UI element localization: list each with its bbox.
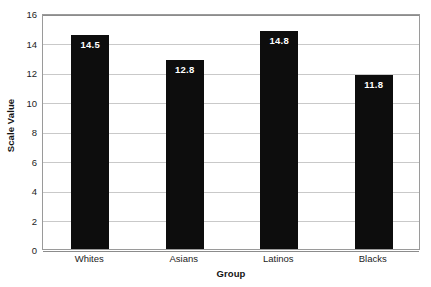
bars-layer: 14.512.814.811.8 xyxy=(43,15,419,249)
y-axis-title-text: Scale Value xyxy=(6,98,17,151)
y-axis-tick-labels: 0246810121416 xyxy=(20,14,40,250)
plot-area: 14.512.814.811.8 xyxy=(42,14,420,250)
bar-chart-figure: Scale Value 0246810121416 14.512.814.811… xyxy=(0,0,431,287)
y-tick-label: 8 xyxy=(32,127,37,138)
y-tick-label: 6 xyxy=(32,156,37,167)
y-axis-title: Scale Value xyxy=(0,0,22,250)
bar-value-label: 14.8 xyxy=(260,35,298,46)
bar[interactable]: 14.8 xyxy=(260,31,298,249)
y-tick-label: 12 xyxy=(26,68,37,79)
x-axis-title: Group xyxy=(42,268,420,279)
y-tick-label: 0 xyxy=(32,245,37,256)
gridline xyxy=(43,251,419,252)
bar-group[interactable]: 11.8 xyxy=(355,15,393,249)
bar-value-label: 11.8 xyxy=(355,79,393,90)
bar-group[interactable]: 14.8 xyxy=(260,15,298,249)
bar-group[interactable]: 12.8 xyxy=(166,15,204,249)
y-tick-label: 14 xyxy=(26,38,37,49)
x-tick-label: Latinos xyxy=(263,253,294,264)
bar-value-label: 12.8 xyxy=(166,64,204,75)
bar-group[interactable]: 14.5 xyxy=(71,15,109,249)
x-axis-tick-labels: WhitesAsiansLatinosBlacks xyxy=(42,253,420,269)
y-tick-label: 10 xyxy=(26,97,37,108)
x-tick-label: Blacks xyxy=(359,253,387,264)
bar[interactable]: 12.8 xyxy=(166,60,204,249)
bar[interactable]: 14.5 xyxy=(71,35,109,249)
bar[interactable]: 11.8 xyxy=(355,75,393,249)
x-tick-label: Asians xyxy=(169,253,198,264)
bar-value-label: 14.5 xyxy=(71,39,109,50)
y-tick-label: 2 xyxy=(32,215,37,226)
x-tick-label: Whites xyxy=(75,253,104,264)
y-tick-label: 4 xyxy=(32,186,37,197)
y-tick-label: 16 xyxy=(26,9,37,20)
